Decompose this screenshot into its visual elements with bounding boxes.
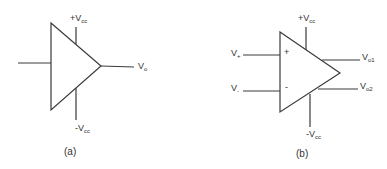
amplifier-b bbox=[243, 27, 360, 127]
diagram-canvas bbox=[0, 0, 387, 169]
amplifier-b-input-pos-label: V+ bbox=[231, 49, 241, 59]
amplifier-b-input-neg-label: V- bbox=[231, 84, 239, 94]
amplifier-b-output-2-label: Vo2 bbox=[360, 82, 373, 92]
amplifier-b-minus-sign: - bbox=[285, 83, 288, 92]
amplifier-a-vcc-neg-label: -Vcc bbox=[75, 124, 90, 134]
amplifier-a-output-wire bbox=[101, 66, 134, 67]
amplifier-a-vcc-pos-label: +Vcc bbox=[70, 14, 87, 24]
amplifier-b-plus-sign: + bbox=[284, 48, 289, 57]
amplifier-b-caption: (b) bbox=[296, 149, 308, 159]
amplifier-b-vcc-neg-label: -Vcc bbox=[306, 130, 321, 140]
amplifier-a bbox=[18, 23, 134, 120]
amplifier-a-caption: (a) bbox=[64, 147, 76, 157]
amplifier-b-output-1-label: Vo1 bbox=[362, 53, 375, 63]
amplifier-b-vcc-pos-label: +Vcc bbox=[298, 14, 315, 24]
amplifier-a-output-label: Vo bbox=[138, 62, 147, 72]
